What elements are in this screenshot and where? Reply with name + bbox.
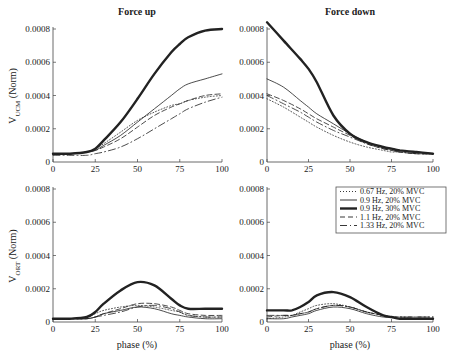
- x-tick-label: 25: [304, 164, 314, 174]
- x-tick-label: 100: [215, 324, 229, 334]
- y-tick-label: 0: [260, 157, 265, 167]
- x-tick-label: 75: [175, 164, 185, 174]
- x-tick-label: 50: [133, 164, 143, 174]
- series-line: [267, 22, 433, 153]
- x-axis-label-right: phase (%): [330, 339, 370, 351]
- y-axis-label-ucm: VUCM (Norm): [7, 68, 22, 124]
- y-tick-label: 0.0008: [239, 184, 264, 194]
- y-tick-label: 0.0002: [25, 124, 50, 134]
- y-tick-label: 0.0008: [239, 24, 264, 34]
- panel-title-force-down: Force down: [325, 6, 376, 17]
- x-axis-label-left: phase (%): [117, 339, 157, 351]
- legend: 0.67 Hz, 20% MVC0.9 Hz, 20% MVC0.9 Hz, 3…: [336, 187, 446, 233]
- plot-force-up-ucm: 00.00020.00040.00060.00080255075100: [25, 24, 229, 174]
- y-tick-label: 0.0004: [25, 91, 50, 101]
- x-tick-label: 75: [387, 164, 397, 174]
- legend-label: 1.33 Hz, 20% MVC: [360, 221, 424, 230]
- y-tick-label: 0.0006: [25, 217, 50, 227]
- x-tick-label: 25: [304, 324, 314, 334]
- y-tick-label: 0.0004: [239, 91, 264, 101]
- y-tick-label: 0.0002: [239, 284, 264, 294]
- x-tick-label: 25: [91, 164, 101, 174]
- y-tick-label: 0.0004: [239, 251, 264, 261]
- series-line: [53, 96, 222, 154]
- series-line: [53, 97, 222, 155]
- series-line: [53, 94, 222, 154]
- figure: Force up Force down VUCM (Norm) VORT (No…: [0, 0, 449, 355]
- y-axis-label-ort: VORT (Norm): [7, 229, 22, 282]
- x-tick-label: 0: [51, 164, 56, 174]
- y-tick-label: 0.0008: [25, 24, 50, 34]
- y-tick-label: 0: [46, 157, 51, 167]
- y-tick-label: 0.0004: [25, 251, 50, 261]
- x-tick-label: 0: [265, 164, 270, 174]
- series-line: [267, 99, 433, 154]
- x-tick-label: 100: [215, 164, 229, 174]
- x-tick-label: 50: [346, 324, 356, 334]
- y-tick-label: 0: [46, 317, 51, 327]
- series-line: [267, 292, 433, 319]
- series-line: [53, 305, 222, 318]
- x-tick-label: 100: [426, 324, 440, 334]
- x-tick-label: 50: [133, 324, 143, 334]
- y-tick-label: 0.0008: [25, 184, 50, 194]
- series-line: [53, 29, 222, 154]
- plot-force-up-ort: 00.00020.00040.00060.00080255075100: [25, 184, 229, 334]
- y-tick-label: 0.0002: [239, 124, 264, 134]
- x-tick-label: 0: [265, 324, 270, 334]
- y-tick-label: 0.0002: [25, 284, 50, 294]
- y-tick-label: 0.0006: [239, 57, 264, 67]
- panel-title-force-up: Force up: [118, 6, 156, 17]
- series-line: [53, 282, 222, 319]
- x-tick-label: 75: [175, 324, 185, 334]
- x-tick-label: 50: [346, 164, 356, 174]
- series-line: [267, 94, 433, 154]
- x-tick-label: 25: [91, 324, 101, 334]
- x-tick-label: 75: [387, 324, 397, 334]
- y-tick-label: 0.0006: [239, 217, 264, 227]
- series-line: [53, 74, 222, 154]
- x-tick-label: 100: [426, 164, 440, 174]
- y-tick-label: 0.0006: [25, 57, 50, 67]
- y-tick-label: 0: [260, 317, 265, 327]
- plot-force-down-ucm: 00.00020.00040.00060.00080255075100: [239, 22, 440, 174]
- x-tick-label: 0: [51, 324, 56, 334]
